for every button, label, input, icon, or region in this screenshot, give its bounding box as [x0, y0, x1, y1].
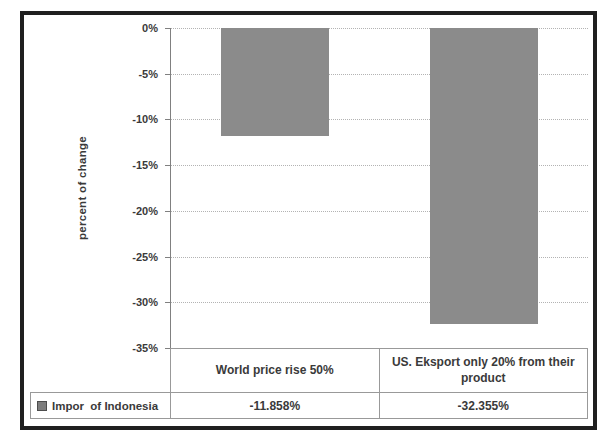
y-axis-tick — [165, 119, 171, 120]
bar-impor-of-indonesia-0 — [221, 28, 329, 136]
plot-area — [170, 28, 588, 348]
category-axis-row: World price rise 50% US. Eksport only 20… — [170, 348, 588, 392]
y-tick-label: -5% — [100, 66, 158, 82]
category-label-us-eksport: US. Eksport only 20% from their product — [380, 349, 589, 392]
legend-cell: Impor of Indonesia — [30, 392, 171, 419]
category-label-world-price: World price rise 50% — [170, 349, 380, 392]
y-tick-label: 0% — [100, 20, 158, 36]
y-tick-label: -10% — [100, 111, 158, 127]
y-tick-label: -25% — [100, 249, 158, 265]
data-table-row: -11.858% -32.355% — [170, 392, 588, 419]
y-axis-tick — [165, 74, 171, 75]
y-tick-label: -15% — [100, 157, 158, 173]
y-tick-label: -35% — [100, 340, 158, 356]
y-axis-tick-labels: 0%-5%-10%-15%-20%-25%-30%-35% — [100, 28, 162, 362]
y-axis-tick — [165, 257, 171, 258]
y-tick-label: -30% — [100, 294, 158, 310]
chart-image: percent of change 0%-5%-10%-15%-20%-25%-… — [0, 0, 608, 441]
data-table-value-world-price: -11.858% — [170, 393, 380, 418]
y-axis-title: percent of change — [76, 136, 88, 240]
y-axis-tick — [165, 211, 171, 212]
y-axis-tick — [165, 165, 171, 166]
y-axis-tick — [165, 28, 171, 29]
y-tick-label: -20% — [100, 203, 158, 219]
legend-series-name: Impor of Indonesia — [52, 400, 158, 412]
data-table-value-us-eksport: -32.355% — [380, 393, 589, 418]
y-axis-tick — [165, 302, 171, 303]
legend-swatch-icon — [37, 401, 47, 411]
bar-impor-of-indonesia-1 — [430, 28, 538, 324]
